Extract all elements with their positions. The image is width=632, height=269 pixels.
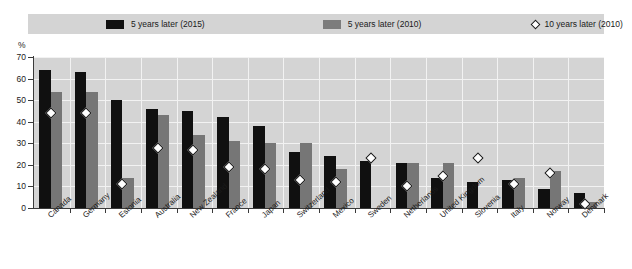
grey-square-icon (323, 20, 341, 29)
bar-series-5-years-later-2010 (158, 115, 170, 208)
x-axis-tick (319, 209, 320, 213)
y-axis-tick (28, 100, 33, 101)
y-axis-unit-label: % (18, 40, 26, 50)
gridline-vertical (462, 57, 463, 208)
x-axis-tick (568, 209, 569, 213)
y-axis-tick-label: 30 (8, 138, 26, 148)
x-axis-tick (604, 209, 605, 213)
y-axis-tick (28, 79, 33, 80)
chart-legend: 5 years later (2015) 5 years later (2010… (28, 14, 604, 34)
y-axis-line (33, 56, 34, 209)
y-axis-tick-label: 60 (8, 74, 26, 84)
y-axis-tick (28, 208, 33, 209)
gridline-vertical (141, 57, 142, 208)
gridline-vertical (390, 57, 391, 208)
x-axis-tick (105, 209, 106, 213)
x-axis-tick (283, 209, 284, 213)
y-axis-tick-label: 10 (8, 181, 26, 191)
y-axis-tick (28, 186, 33, 187)
legend-label-2: 10 years later (2010) (544, 19, 622, 29)
gridline-vertical (70, 57, 71, 208)
x-axis-tick (141, 209, 142, 213)
gridline-vertical (212, 57, 213, 208)
gridline-vertical (105, 57, 106, 208)
diamond-marker-icon (531, 20, 540, 29)
marker-series-10-years-later-2010 (473, 153, 484, 164)
gridline-vertical (568, 57, 569, 208)
bar-series-5-years-later-2015 (111, 100, 123, 208)
bar-series-5-years-later-2015 (182, 111, 194, 208)
bar-series-5-years-later-2015 (39, 70, 51, 208)
bar-series-5-years-later-2015 (146, 109, 158, 208)
x-axis-tick (177, 209, 178, 213)
x-axis-tick (497, 209, 498, 213)
x-axis-tick (355, 209, 356, 213)
x-axis-tick (248, 209, 249, 213)
legend-label-0: 5 years later (2015) (131, 19, 205, 29)
y-axis-tick (28, 122, 33, 123)
plot-area (34, 57, 604, 208)
legend-label-1: 5 years later (2010) (348, 19, 422, 29)
x-axis-tick (70, 209, 71, 213)
gridline-vertical (283, 57, 284, 208)
x-axis-tick (462, 209, 463, 213)
y-axis-tick (28, 57, 33, 58)
black-square-icon (106, 20, 124, 29)
y-axis-tick-label: 70 (8, 52, 26, 62)
gridline-vertical (248, 57, 249, 208)
y-axis-tick (28, 165, 33, 166)
y-axis-tick (28, 143, 33, 144)
y-axis-tick-label: 50 (8, 95, 26, 105)
bar-series-5-years-later-2015 (75, 72, 87, 208)
legend-item-5-years-later-2010[interactable]: 5 years later (2010) (323, 19, 422, 29)
bar-series-5-years-later-2015 (538, 189, 550, 208)
y-axis-tick-label: 20 (8, 160, 26, 170)
bar-series-5-years-later-2015 (360, 161, 372, 208)
y-axis-tick-label: 40 (8, 117, 26, 127)
bar-chart: 5 years later (2015) 5 years later (2010… (0, 0, 632, 269)
gridline-vertical (497, 57, 498, 208)
y-axis-tick-label: 0 (8, 203, 26, 213)
x-axis-tick (390, 209, 391, 213)
legend-item-5-years-later-2015[interactable]: 5 years later (2015) (106, 19, 205, 29)
gridline-vertical (533, 57, 534, 208)
gridline-vertical (355, 57, 356, 208)
gridline-vertical (177, 57, 178, 208)
legend-item-10-years-later-2010[interactable]: 10 years later (2010) (531, 19, 622, 29)
x-axis-tick (533, 209, 534, 213)
x-axis-tick (212, 209, 213, 213)
gridline-vertical (426, 57, 427, 208)
gridline-vertical (319, 57, 320, 208)
x-axis-tick (426, 209, 427, 213)
